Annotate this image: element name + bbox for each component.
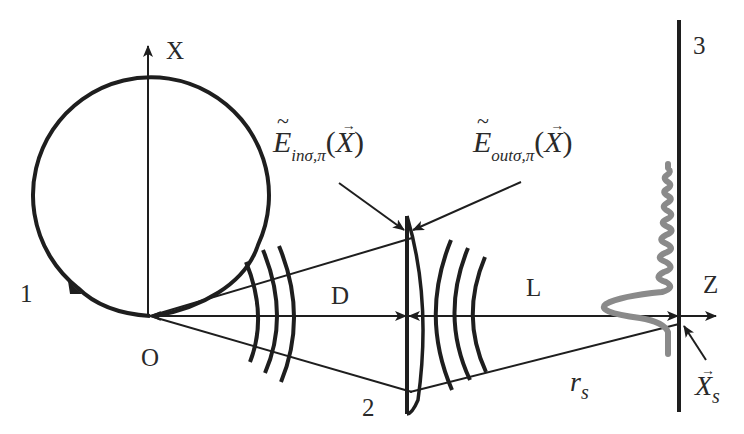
e-in-pointer-arrow <box>339 183 404 230</box>
distance-d-label: D <box>331 283 349 308</box>
r-s-subscript: s <box>581 381 589 403</box>
x-s-pointer-arrow <box>684 326 706 360</box>
e-out-pointer-arrow <box>413 182 521 230</box>
electron-orbit-circle <box>33 77 269 316</box>
screen-number-label: 3 <box>693 33 706 58</box>
x-s-subscript: s <box>712 385 720 407</box>
x-s-label: Xs <box>695 372 720 406</box>
field-out-base: E <box>473 127 491 157</box>
x-axis-label: X <box>166 38 184 63</box>
r-s-base: r <box>570 366 581 397</box>
z-axis-label: Z <box>703 272 718 297</box>
field-profile-wave <box>604 164 672 354</box>
lens-number-label: 2 <box>362 395 375 420</box>
field-in-base: E <box>273 127 291 157</box>
field-in-label: Einσ,π(X) <box>273 127 364 164</box>
ray-r-s <box>410 324 679 392</box>
field-out-subscript: outσ,π <box>491 146 534 165</box>
distance-l-label: L <box>526 275 541 300</box>
x-s-base: X <box>695 372 712 400</box>
field-in-argument: X <box>336 127 354 157</box>
origin-label: O <box>141 345 159 370</box>
field-out-argument: X <box>544 127 562 157</box>
r-s-label: rs <box>570 368 589 402</box>
wavefronts-incoming <box>246 246 294 382</box>
field-in-subscript: inσ,π <box>291 146 325 165</box>
optics-diagram <box>0 0 744 434</box>
field-out-label: Eoutσ,π(X) <box>473 127 573 164</box>
orbit-number-label: 1 <box>20 281 33 306</box>
